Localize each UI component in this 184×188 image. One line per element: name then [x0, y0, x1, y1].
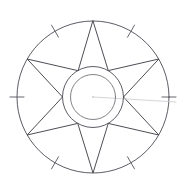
center-dot-icon	[92, 96, 94, 98]
star-rosette-svg	[0, 0, 184, 188]
figure-canvas	[0, 0, 184, 188]
tick-mark-60	[128, 25, 135, 37]
tick-mark-240	[52, 157, 59, 169]
faint-guide-line	[93, 97, 176, 102]
tick-mark-300	[128, 157, 135, 169]
tick-mark-120	[52, 25, 59, 37]
